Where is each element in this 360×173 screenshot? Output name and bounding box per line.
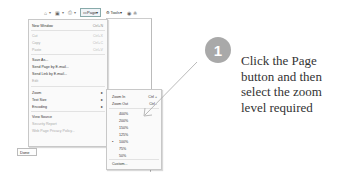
step-instruction: Click the Page button and then select th…	[241, 53, 356, 115]
instruction-line: button and then	[241, 69, 356, 85]
instruction-line: Click the Page	[241, 53, 356, 69]
step-number-badge: 1	[205, 37, 231, 63]
instruction-line: select the zoom	[241, 84, 356, 100]
instruction-line: level required	[241, 100, 356, 116]
step-number: 1	[214, 42, 222, 59]
